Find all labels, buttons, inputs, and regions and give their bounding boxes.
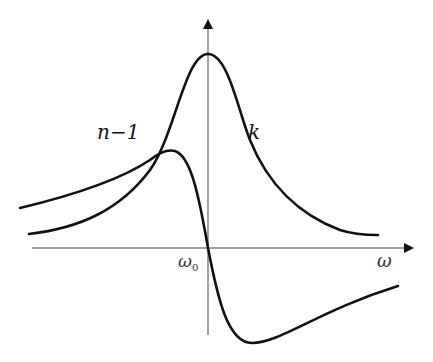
omega0-symbol: ω <box>178 251 192 271</box>
resonance-diagram: n−1 k ω0 ω <box>0 0 433 362</box>
omega0-tick-label: ω0 <box>178 253 198 273</box>
k-label: k <box>248 122 260 142</box>
k-curve <box>29 54 378 235</box>
diagram-canvas <box>0 0 433 362</box>
x-axis-label: ω <box>377 252 392 270</box>
omega0-subscript: 0 <box>192 262 198 273</box>
n-minus-1-curve <box>20 150 398 343</box>
n-minus-1-label: n−1 <box>97 122 139 142</box>
